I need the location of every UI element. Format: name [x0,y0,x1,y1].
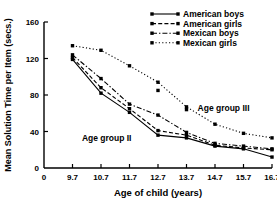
y-axis-title: Mean Solution Time per Item (secs.) [3,18,13,171]
data-point-marker [213,123,216,126]
x-tick-label: 12.7 [150,173,166,182]
x-tick-label: 9.7 [67,173,79,182]
y-tick-label: 120 [26,55,40,64]
data-point-marker [242,132,245,135]
legend-marker-start [150,41,153,44]
data-point-marker [99,49,102,52]
data-point-marker [71,53,74,56]
data-point-marker [71,44,74,47]
data-point-marker [213,142,216,145]
data-point-marker [99,77,102,80]
x-tick-label: 10.7 [93,173,109,182]
legend-marker-end [176,32,179,35]
legend-label-2: Mexican boys [183,28,239,38]
data-point-marker [156,129,159,132]
legend-label-3: Mexican girls [183,38,237,48]
legend-marker-end [176,22,179,25]
data-point-marker [185,108,188,111]
x-tick-label: 0 [42,173,47,182]
y-tick-label: 0 [35,164,40,173]
data-point-marker [156,133,159,136]
annotation-label: Age group II [82,133,132,143]
data-point-marker [128,107,131,110]
data-point-marker [156,113,159,116]
y-tick-label: 160 [26,18,40,27]
annotation-label: Age group III [198,103,250,113]
x-axis-title: Age of child (years) [114,187,202,198]
legend-marker-start [150,12,153,15]
x-tick-label: 11.7 [122,173,138,182]
data-point-marker [156,89,159,92]
data-point-marker [156,81,159,84]
data-point-marker [270,147,273,150]
data-point-marker [242,144,245,147]
x-tick-label: 15.7 [236,173,252,182]
data-point-marker [270,136,273,139]
y-tick-label: 80 [30,91,39,100]
data-point-marker [99,86,102,89]
data-point-marker [128,64,131,67]
line-chart: 0408012016009.710.711.712.713.714.715.71… [0,0,277,214]
data-point-marker [270,155,273,158]
x-tick-label: 13.7 [179,173,195,182]
data-point-marker [99,91,102,94]
x-tick-label: 16.7 [264,173,277,182]
chart-figure: 0408012016009.710.711.712.713.714.715.71… [0,0,277,214]
x-tick-label: 14.7 [207,173,223,182]
legend-marker-start [150,22,153,25]
data-point-marker [128,111,131,114]
legend-label-0: American boys [183,9,244,19]
y-tick-label: 40 [30,128,39,137]
legend-marker-end [176,12,179,15]
data-point-marker [128,102,131,105]
legend-marker-end [176,41,179,44]
legend-marker-start [150,32,153,35]
data-point-marker [185,131,188,134]
legend-label-1: American girls [183,19,242,29]
